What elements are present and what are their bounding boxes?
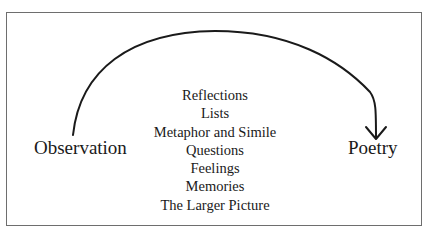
technique-item: Memories bbox=[125, 177, 305, 195]
technique-item: Feelings bbox=[125, 159, 305, 177]
technique-item: The Larger Picture bbox=[125, 196, 305, 214]
technique-item: Metaphor and Simile bbox=[125, 123, 305, 141]
start-node-observation: Observation bbox=[34, 138, 127, 158]
technique-item: Lists bbox=[125, 104, 305, 122]
technique-item: Reflections bbox=[125, 86, 305, 104]
technique-item: Questions bbox=[125, 141, 305, 159]
technique-list: Reflections Lists Metaphor and Simile Qu… bbox=[125, 86, 305, 214]
end-node-poetry: Poetry bbox=[348, 138, 398, 158]
